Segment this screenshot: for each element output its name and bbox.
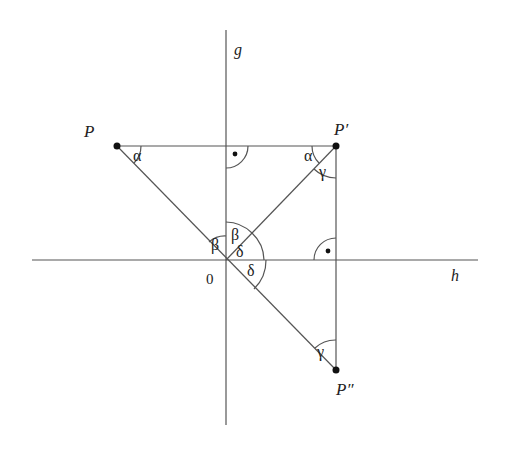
label-Pdoubleprime: P″ (335, 380, 354, 399)
angle-alpha-Pprime: α (304, 147, 313, 164)
arc-delta-lower (254, 260, 266, 289)
angle-beta-left: β (211, 236, 219, 254)
arc-alpha-Pprime (312, 146, 319, 163)
right-angle-arc-h (314, 238, 336, 260)
angle-gamma-Pprime: γ (318, 163, 326, 181)
label-origin: 0 (206, 271, 214, 287)
point-Pprime (333, 143, 340, 150)
reflection-diagram: g h 0 P P′ P″ α α γ γ β β δ δ (0, 0, 508, 457)
angle-gamma-Pdoubleprime: γ (316, 343, 324, 361)
point-Pdoubleprime (333, 367, 340, 374)
angle-beta-right: β (231, 226, 239, 244)
label-g-axis: g (234, 41, 242, 59)
angle-delta-lower: δ (247, 262, 255, 279)
arc-delta-upper (252, 233, 264, 260)
angle-delta-upper: δ (236, 243, 244, 260)
label-h-axis: h (451, 267, 459, 284)
angle-alpha-P: α (133, 147, 142, 164)
right-angle-arc-top (226, 146, 248, 168)
right-angle-dot-h (326, 249, 331, 254)
right-angle-dot-top (233, 152, 238, 157)
label-P: P (83, 122, 94, 141)
point-P (114, 143, 121, 150)
label-Pprime: P′ (333, 120, 348, 139)
